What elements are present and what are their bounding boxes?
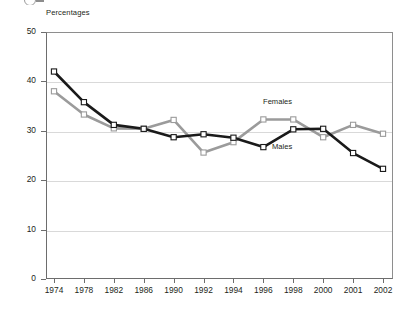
series-line-females [54, 91, 383, 152]
data-point-marker [380, 131, 385, 136]
series-line-males [54, 72, 383, 169]
data-point-marker [231, 135, 236, 140]
data-point-marker [51, 89, 56, 94]
data-point-marker [201, 132, 206, 137]
data-point-marker [350, 150, 355, 155]
data-point-marker [141, 126, 146, 131]
data-point-marker [261, 117, 266, 122]
series-label-females: Females [263, 97, 292, 106]
data-point-marker [81, 112, 86, 117]
chart-container: Percentages 01020304050 1974197819821986… [0, 0, 415, 310]
data-point-marker [380, 166, 385, 171]
data-point-marker [261, 145, 266, 150]
data-point-marker [291, 127, 296, 132]
data-point-marker [291, 117, 296, 122]
data-point-marker [51, 69, 56, 74]
series-layer [0, 0, 415, 310]
data-point-marker [171, 117, 176, 122]
data-point-marker [201, 150, 206, 155]
data-point-marker [321, 135, 326, 140]
data-point-marker [111, 122, 116, 127]
data-point-marker [171, 135, 176, 140]
series-label-males: Males [272, 142, 292, 151]
data-point-marker [350, 122, 355, 127]
data-point-marker [321, 126, 326, 131]
data-point-marker [81, 100, 86, 105]
